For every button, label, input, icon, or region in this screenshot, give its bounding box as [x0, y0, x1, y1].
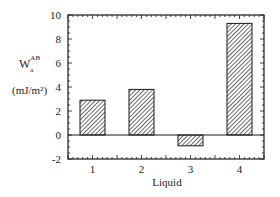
x-tick-label: 4 — [237, 163, 243, 175]
y-tick-label: 8 — [56, 33, 62, 45]
bars — [80, 23, 252, 145]
x-axis-label: Liquid — [152, 176, 182, 188]
y-tick-label: -2 — [52, 153, 61, 165]
y-axis-label: WABa — [19, 58, 44, 70]
x-tick-labels: 1234 — [90, 163, 243, 175]
bar-3 — [178, 135, 203, 146]
bar-chart: -20246810 1234 Liquid — [0, 0, 280, 197]
x-tick-label: 1 — [90, 163, 96, 175]
x-tick-label: 2 — [139, 163, 145, 175]
y-axis-label-main: W — [19, 57, 30, 71]
bar-2 — [129, 89, 154, 135]
y-axis-label-sub: a — [30, 67, 33, 74]
y-axis-label-sup: AB — [30, 55, 40, 62]
y-tick-label: 10 — [50, 9, 62, 21]
bar-4 — [227, 23, 252, 135]
x-tick-label: 3 — [188, 163, 194, 175]
bar-1 — [80, 100, 105, 135]
y-tick-label: 4 — [56, 81, 62, 93]
y-tick-labels: -20246810 — [50, 9, 62, 165]
y-tick-label: 2 — [56, 105, 62, 117]
y-tick-label: 6 — [56, 57, 62, 69]
y-tick-label: 0 — [56, 129, 62, 141]
y-axis-units: (mJ/m²) — [12, 85, 47, 96]
